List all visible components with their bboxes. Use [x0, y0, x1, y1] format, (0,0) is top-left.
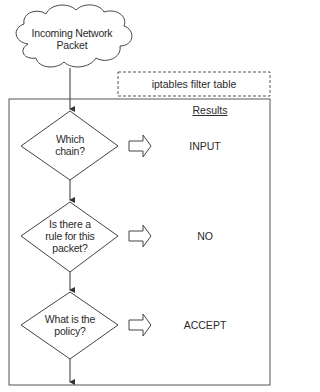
result-2: NO	[170, 230, 240, 242]
container-label: iptables filter table	[118, 78, 270, 90]
start-node-line1: Incoming Network	[30, 27, 114, 39]
block-arrow-2-icon	[129, 225, 151, 247]
decision-1-line1: Which	[30, 133, 110, 145]
decision-3-line1: What is the	[30, 313, 110, 325]
decision-2-line2: rule for this	[30, 230, 110, 242]
decision-2-label: Is there a rule for this packet?	[30, 218, 110, 254]
decision-1-line2: chain?	[30, 145, 110, 157]
decision-2-line1: Is there a	[30, 218, 110, 230]
decision-2-line3: packet?	[30, 242, 110, 254]
block-arrow-1-icon	[129, 135, 151, 157]
decision-1-label: Which chain?	[30, 133, 110, 157]
block-arrow-3-icon	[129, 314, 151, 336]
results-heading: Results	[170, 104, 250, 116]
result-3: ACCEPT	[170, 319, 240, 331]
result-1: INPUT	[170, 140, 240, 152]
decision-3-line2: policy?	[30, 325, 110, 337]
start-node-line2: Packet	[30, 39, 114, 51]
start-node-label: Incoming Network Packet	[30, 27, 114, 51]
decision-3-label: What is the policy?	[30, 313, 110, 337]
